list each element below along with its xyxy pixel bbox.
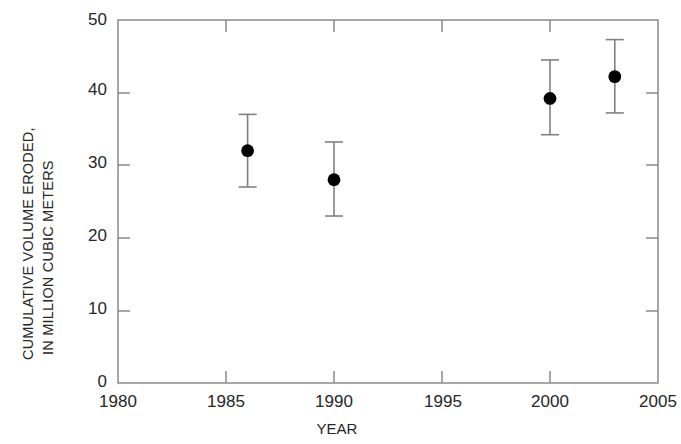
data-marker [608, 70, 621, 83]
data-point-1990 [325, 142, 343, 216]
x-axis-ticks-top [226, 20, 550, 32]
data-point-1986 [239, 114, 257, 187]
data-point-2000 [541, 60, 559, 135]
plot-frame [118, 20, 658, 383]
y-axis-ticks-left [118, 93, 130, 311]
x-axis-ticks-bottom [226, 371, 550, 383]
data-point-2003 [606, 40, 624, 113]
y-axis-ticks-right [646, 93, 658, 311]
data-marker [328, 173, 341, 186]
data-series [239, 40, 624, 216]
data-marker [241, 144, 254, 157]
data-marker [544, 92, 557, 105]
